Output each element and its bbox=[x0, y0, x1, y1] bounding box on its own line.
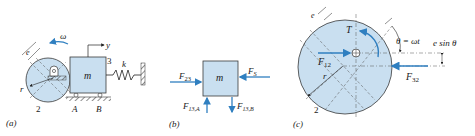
y-axis-arrow bbox=[88, 45, 104, 57]
spring bbox=[106, 70, 141, 80]
eccentricity-label-c: e bbox=[311, 11, 315, 20]
slider-number: 3 bbox=[107, 56, 112, 66]
caption-b: (b) bbox=[169, 119, 180, 129]
eccentricity-label: e bbox=[26, 48, 30, 57]
fs-label: FS bbox=[247, 66, 258, 77]
spring-label: k bbox=[122, 59, 127, 69]
caption-c: (c) bbox=[293, 119, 303, 129]
panel-a: r e ω 2 m 3 y k A B (a) bbox=[6, 31, 145, 128]
panel-c: T F12 F32 θ = ωt e sin θ e r 2 (c) bbox=[293, 7, 457, 129]
mass-label-fbd: m bbox=[216, 72, 223, 83]
ground bbox=[66, 97, 111, 101]
cam-disc-large bbox=[298, 20, 392, 114]
f13a-label: F13,A bbox=[182, 101, 200, 112]
support-b-label: B bbox=[96, 104, 102, 114]
f23-label: F23 bbox=[178, 71, 191, 82]
theta-label: θ = ωt bbox=[396, 36, 420, 46]
radius-label: r bbox=[20, 84, 24, 94]
panel-b: m F23 FS F13,A F13,B (b) bbox=[169, 61, 270, 129]
f32-label: F32 bbox=[405, 71, 420, 84]
mass-label: m bbox=[84, 70, 91, 81]
support-a-label: A bbox=[71, 104, 78, 114]
wall bbox=[141, 63, 145, 85]
radius-label-c: r bbox=[323, 71, 327, 81]
cam-number: 2 bbox=[36, 104, 41, 114]
offset-label: e sin θ bbox=[433, 38, 457, 48]
cam-number-c: 2 bbox=[314, 105, 319, 115]
y-label: y bbox=[105, 40, 110, 50]
caption-a: (a) bbox=[6, 118, 17, 128]
omega-label: ω bbox=[60, 31, 66, 41]
omega-arrow bbox=[50, 42, 68, 44]
f13b-label: F13,B bbox=[236, 101, 254, 112]
cam-follower-diagram: r e ω 2 m 3 y k A B (a) m F23 bbox=[0, 0, 475, 136]
